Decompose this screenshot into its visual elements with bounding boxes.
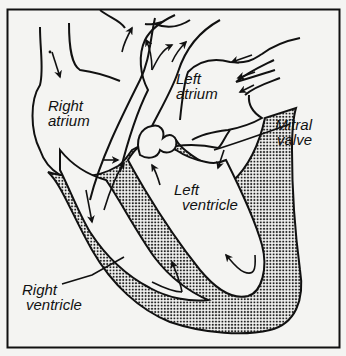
mitral-valve-leaflet bbox=[176, 130, 230, 148]
label-left-atrium: Left atrium bbox=[176, 71, 218, 101]
pulmonary-vein-lines bbox=[236, 60, 280, 95]
label-mitral-valve: Mitral valve bbox=[271, 117, 312, 147]
pulmonary-branch-left bbox=[100, 10, 125, 28]
aorta-arch bbox=[145, 20, 190, 27]
label-left-ventricle: Left ventricle bbox=[174, 182, 238, 212]
label-right-ventricle: Right ventricle bbox=[22, 282, 82, 312]
label-right-atrium: Right atrium bbox=[48, 98, 90, 128]
superior-vena-cava bbox=[69, 23, 120, 81]
